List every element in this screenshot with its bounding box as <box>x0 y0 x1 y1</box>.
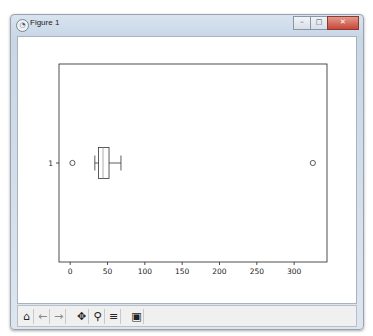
x-tick-label: 0 <box>68 267 73 276</box>
matplotlib-icon: ◔ <box>16 19 29 32</box>
maximize-button[interactable]: □ <box>310 16 328 30</box>
pan-button[interactable]: ✥ <box>75 309 89 324</box>
y-tick-label: 1 <box>48 159 53 168</box>
x-tick-label: 250 <box>250 267 265 276</box>
save-button[interactable]: ▣ <box>130 309 144 324</box>
outlier-point <box>310 160 315 165</box>
close-button[interactable]: ✕ <box>327 16 359 30</box>
back-button[interactable]: ← <box>36 309 50 324</box>
figure-window: ◔ Figure 1 – □ ✕ 050100150200250300 1 ⌂ … <box>10 14 364 330</box>
x-tick-label: 100 <box>138 267 153 276</box>
x-tick-label: 50 <box>103 267 113 276</box>
minimize-button[interactable]: – <box>293 16 311 30</box>
x-tick-label: 200 <box>212 267 227 276</box>
zoom-button[interactable]: ⚲ <box>91 309 105 324</box>
pan-icon: ✥ <box>77 310 86 323</box>
configure-subplots-button[interactable]: ≡ <box>107 309 121 324</box>
save-icon: ▣ <box>131 310 141 323</box>
forward-button[interactable]: → <box>52 309 66 324</box>
forward-icon: → <box>54 310 63 323</box>
title-bar[interactable]: ◔ Figure 1 – □ ✕ <box>11 15 363 35</box>
box-iqr <box>99 148 109 179</box>
configure-subplots-icon: ≡ <box>109 310 118 323</box>
navigation-toolbar: ⌂ ← → ✥ ⚲ ≡ ▣ <box>17 305 357 327</box>
outlier-point <box>70 160 75 165</box>
zoom-icon: ⚲ <box>93 310 101 323</box>
boxplot-chart: 050100150200250300 1 <box>18 37 356 303</box>
axes-frame <box>59 64 327 262</box>
figure-canvas: 050100150200250300 1 <box>17 36 357 304</box>
x-tick-label: 150 <box>175 267 190 276</box>
x-tick-label: 300 <box>287 267 302 276</box>
back-icon: ← <box>38 310 47 323</box>
home-icon: ⌂ <box>23 310 30 323</box>
window-title: Figure 1 <box>30 18 59 27</box>
home-button[interactable]: ⌂ <box>20 309 34 324</box>
